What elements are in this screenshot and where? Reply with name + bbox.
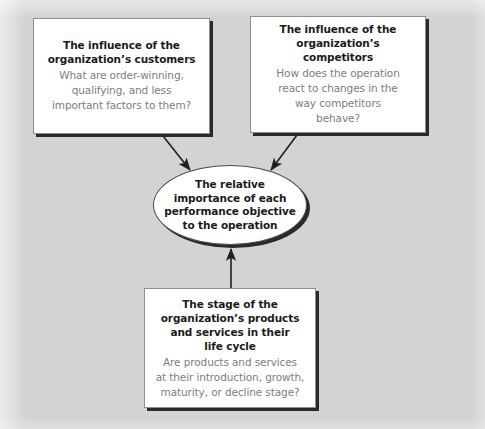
node-customers-title: The influence of the organization’s cust… bbox=[48, 38, 196, 66]
node-lifecycle-body: Are products and services at their intro… bbox=[156, 355, 305, 400]
node-core-ellipse: The relative importance of each performa… bbox=[153, 165, 307, 245]
node-lifecycle: The stage of the organization’s products… bbox=[144, 288, 316, 408]
node-core-objective: The relative importance of each performa… bbox=[153, 165, 307, 245]
node-competitors-title: The influence of the organization’s comp… bbox=[261, 22, 415, 64]
node-core-text: The relative importance of each performa… bbox=[158, 178, 301, 232]
node-competitors-body: How does the operation react to changes … bbox=[276, 66, 399, 126]
node-customers-body: What are order-winning, qualifying, and … bbox=[52, 68, 191, 113]
node-customers: The influence of the organization’s cust… bbox=[33, 18, 210, 134]
node-competitors: The influence of the organization’s comp… bbox=[250, 16, 426, 133]
diagram-canvas: The influence of the organization’s cust… bbox=[0, 0, 485, 429]
node-lifecycle-title: The stage of the organization’s products… bbox=[161, 297, 300, 353]
